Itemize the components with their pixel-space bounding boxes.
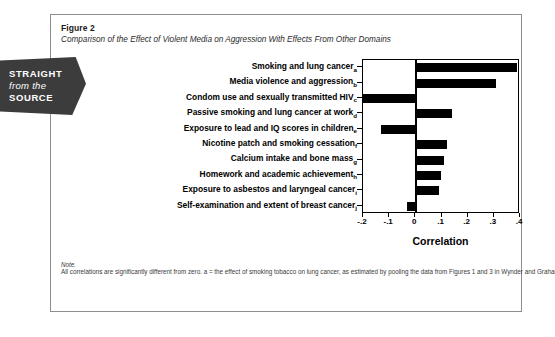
note-line: All correlations are significantly diffe…: [61, 268, 388, 275]
badge-line-2: from the: [9, 80, 86, 92]
category-label: Self-examination and extent of breast ca…: [177, 198, 357, 213]
chart-row: Exposure to lead and IQ scores in childr…: [51, 121, 469, 136]
chart-row: Calcium intake and bone massg: [51, 151, 469, 166]
x-axis-tick-label: .2: [463, 217, 470, 226]
category-label: Media violence and aggressionb: [229, 74, 357, 89]
x-axis-tick-label: .1: [437, 217, 444, 226]
category-label: Passive smoking and lung cancer at workd: [187, 105, 357, 120]
x-axis-ticks: -.2-.10.1.2.3.4: [362, 213, 519, 218]
x-axis-tick-label: 0: [412, 217, 416, 226]
figure-caption: Figure 2 Comparison of the Effect of Vio…: [61, 23, 491, 45]
chart-row: Smoking and lung cancera: [51, 59, 469, 74]
y-axis-tick: [357, 159, 362, 160]
y-axis-tick: [357, 189, 362, 190]
badge-line-1: STRAIGHT: [9, 68, 86, 80]
y-axis-tick: [357, 66, 362, 67]
y-axis-tick: [357, 97, 362, 98]
x-axis-tick-label: .3: [489, 217, 496, 226]
figure-title: Comparison of the Effect of Violent Medi…: [61, 34, 491, 45]
straight-from-the-source-badge: STRAIGHT from the SOURCE: [0, 57, 86, 115]
badge-line-3: SOURCE: [9, 92, 86, 104]
note-lead: Note.: [61, 261, 76, 268]
x-axis-tick-label: -.1: [383, 217, 392, 226]
category-label: Condom use and sexually transmitted HIVc: [186, 90, 357, 105]
chart-row: Passive smoking and lung cancer at workd: [51, 105, 469, 120]
chart-row: Media violence and aggressionb: [51, 74, 469, 89]
figure-number: Figure 2: [61, 23, 491, 34]
x-axis-title: Correlation: [362, 235, 519, 247]
chart-row: Self-examination and extent of breast ca…: [51, 198, 469, 213]
chart-row: Exposure to asbestos and laryngeal cance…: [51, 182, 469, 197]
chart-row: Nicotine patch and smoking cessationf: [51, 136, 469, 151]
x-axis-tick-label: .4: [516, 217, 523, 226]
category-label-column: Smoking and lung canceraMedia violence a…: [51, 59, 469, 213]
y-axis-tick: [357, 82, 362, 83]
category-label: Exposure to lead and IQ scores in childr…: [184, 121, 357, 136]
category-label: Smoking and lung cancera: [252, 59, 357, 74]
bar-chart: Smoking and lung canceraMedia violence a…: [51, 59, 521, 259]
y-axis-tick: [357, 112, 362, 113]
note-body: All correlations are significantly diffe…: [61, 268, 555, 275]
figure-note: Note. All correlations are significantly…: [61, 261, 513, 276]
chart-row: Condom use and sexually transmitted HIVc: [51, 90, 469, 105]
y-axis-tick: [357, 205, 362, 206]
category-label: Homework and academic achievementh: [200, 167, 357, 182]
y-axis-tick: [357, 128, 362, 129]
figure-frame: Figure 2 Comparison of the Effect of Vio…: [50, 14, 522, 312]
y-axis-tick: [357, 143, 362, 144]
category-label: Exposure to asbestos and laryngeal cance…: [183, 182, 357, 197]
note-line: pooling the data from Figures 1 and 3 in…: [388, 268, 555, 275]
category-label: Calcium intake and bone massg: [231, 151, 357, 166]
chart-row: Homework and academic achievementh: [51, 167, 469, 182]
x-axis-tick-label: -.2: [357, 217, 366, 226]
y-axis-tick: [357, 174, 362, 175]
category-label: Nicotine patch and smoking cessationf: [202, 136, 357, 151]
